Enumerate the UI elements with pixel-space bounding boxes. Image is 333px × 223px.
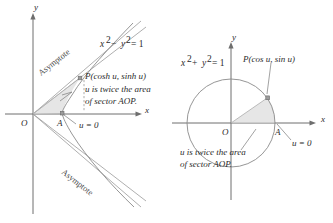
left-point-p-label: P(cosh u, sinh u) bbox=[84, 71, 146, 81]
left-x-axis-arrowhead bbox=[136, 112, 143, 117]
right-origin-label: O bbox=[222, 127, 229, 137]
point-a-marker bbox=[60, 111, 64, 115]
right-point-a-label: A bbox=[274, 127, 281, 137]
figure-canvas: y x O A x 2 − y 2 = 1 P(cosh u, sinh u) … bbox=[0, 0, 333, 223]
circular-sector-region bbox=[231, 98, 275, 123]
left-x-axis-label: x bbox=[144, 105, 149, 115]
left-origin-label: O bbox=[21, 118, 28, 128]
right-eq-operator: + bbox=[192, 58, 197, 68]
right-y-axis-label: y bbox=[231, 32, 236, 42]
figure-root: y x O A x 2 − y 2 = 1 P(cosh u, sinh u) … bbox=[0, 0, 333, 223]
left-equation: x 2 − y 2 = 1 bbox=[99, 35, 144, 49]
right-note-line2: of sector AOP. bbox=[180, 159, 232, 169]
left-eq-operator: − bbox=[111, 39, 116, 49]
circle-panel: y x O A x 2 + y 2 = 1 P(cos u, sin u) u … bbox=[172, 32, 325, 200]
right-eq-x: x bbox=[180, 58, 186, 68]
right-equation: x 2 + y 2 = 1 bbox=[180, 54, 225, 68]
right-p-leader-line bbox=[267, 63, 271, 94]
right-note-line1: u is twice the area bbox=[180, 147, 246, 157]
left-eq-x: x bbox=[99, 39, 105, 49]
point-p-marker bbox=[78, 76, 82, 80]
right-y-axis-arrowhead bbox=[228, 42, 233, 49]
lower-asymptote-label: Asymptote bbox=[60, 167, 96, 198]
right-point-p-label: P(cos u, sin u) bbox=[242, 54, 295, 64]
right-x-axis-arrowhead bbox=[310, 121, 317, 126]
left-note-line1: u is twice the area bbox=[85, 84, 151, 94]
right-eq-equals: = 1 bbox=[212, 58, 225, 68]
left-point-a-label: A bbox=[56, 118, 63, 128]
upper-asymptote-label: Asymptote bbox=[36, 47, 72, 78]
left-u-zero-label: u = 0 bbox=[79, 120, 99, 130]
hyperbola-panel: y x O A x 2 − y 2 = 1 P(cosh u, sinh u) … bbox=[5, 2, 151, 214]
right-point-p-marker bbox=[266, 96, 270, 100]
left-y-axis-label: y bbox=[33, 2, 38, 12]
left-eq-equals: = 1 bbox=[131, 39, 144, 49]
right-u-zero-label: u = 0 bbox=[292, 138, 312, 148]
left-y-axis-arrowhead bbox=[30, 13, 35, 20]
left-note-line2: of sector AOP. bbox=[85, 96, 137, 106]
right-x-axis-label: x bbox=[320, 114, 325, 124]
